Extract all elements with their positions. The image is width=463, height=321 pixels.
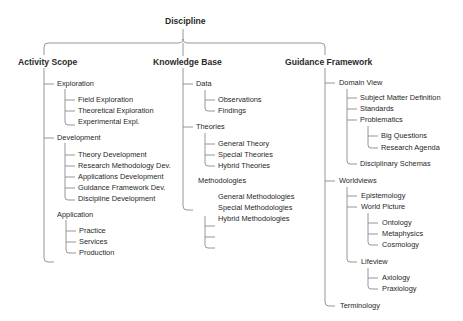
leaf-metaphysics: Metaphysics	[382, 230, 423, 237]
node-theories: Theories	[196, 123, 225, 130]
node-domain-view: Domain View	[339, 79, 382, 86]
leaf-guidance-framework-dev: Guidance Framework Dev.	[78, 184, 165, 191]
node-application: Application	[57, 211, 93, 218]
node-world-picture: World Picture	[361, 203, 405, 210]
node-data: Data	[196, 80, 212, 87]
leaf-practice: Practice	[79, 227, 106, 234]
leaf-findings: Findings	[218, 107, 246, 114]
branch-activity-scope: Activity Scope	[18, 58, 77, 67]
branch-knowledge-base: Knowledge Base	[153, 58, 222, 67]
node-terminology: Terminology	[340, 302, 380, 309]
leaf-general-theory: General Theory	[218, 140, 269, 147]
leaf-theoretical-exploration: Theoretical Exploration	[78, 107, 154, 114]
leaf-observations: Observations	[218, 96, 262, 103]
root-node-discipline: Discipline	[165, 17, 206, 26]
leaf-big-questions: Big Questions	[381, 132, 427, 139]
leaf-praxiology: Praxiology	[382, 285, 417, 292]
node-development: Development	[57, 134, 101, 141]
leaf-special-methodologies: Special Methodologies	[218, 204, 292, 211]
leaf-disciplinary-schemas: Disciplinary Schemas	[360, 160, 431, 167]
leaf-subject-matter-definition: Subject Matter Definition	[360, 94, 441, 101]
leaf-production: Production	[79, 249, 114, 256]
leaf-services: Services	[79, 238, 107, 245]
leaf-applications-development: Applications Development	[78, 173, 163, 180]
leaf-research-agenda: Research Agenda	[381, 144, 440, 151]
leaf-standards: Standards	[360, 105, 394, 112]
node-lifeview: Lifeview	[361, 258, 388, 265]
leaf-experimental-expl: Experimental Expl.	[78, 118, 140, 125]
leaf-epistemology: Epistemology	[361, 192, 405, 199]
leaf-general-methodologies: General Methodologies	[218, 193, 294, 200]
leaf-field-exploration: Field Exploration	[78, 96, 133, 103]
leaf-ontology: Ontology	[382, 219, 412, 226]
leaf-cosmology: Cosmology	[382, 241, 419, 248]
leaf-hybrid-theories: Hybrid Theories	[218, 162, 270, 169]
node-worldviews: Worldviews	[339, 177, 377, 184]
node-problematics: Problematics	[360, 116, 403, 123]
leaf-research-methodology-dev: Research Methodology Dev.	[78, 162, 171, 169]
node-methodologies: Methodologies	[198, 177, 246, 184]
leaf-special-theories: Special Theories	[218, 151, 273, 158]
node-exploration: Exploration	[57, 80, 94, 87]
leaf-theory-development: Theory Development	[78, 151, 147, 158]
branch-guidance-framework: Guidance Framework	[285, 58, 372, 67]
leaf-axiology: Axiology	[382, 274, 410, 281]
leaf-hybrid-methodologies: Hybrid Methodologies	[218, 215, 289, 222]
leaf-discipline-development: Discipline Development	[78, 195, 155, 202]
